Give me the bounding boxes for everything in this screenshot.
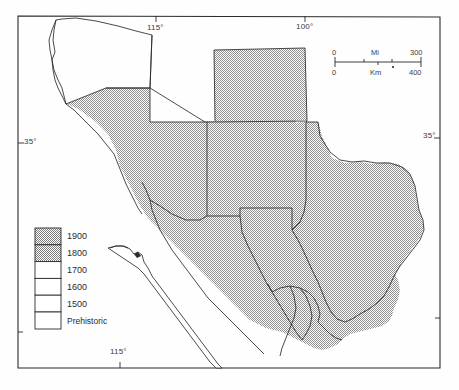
map-figure: 115° 100° 115° 35° 35° 0 Mi 300 0 Km 400… (0, 0, 459, 390)
map-canvas (0, 0, 459, 390)
legend-swatch-1500 (35, 295, 61, 312)
scale-km-max: 400 (409, 68, 422, 77)
longitude-label-100-top: 100° (296, 22, 313, 31)
legend-label-1800: 1800 (67, 248, 87, 258)
legend-swatch-1900 (35, 228, 61, 245)
scale-miles-zero: 0 (332, 48, 336, 57)
shaded-distribution-area (66, 48, 424, 350)
latitude-label-35-right: 35° (423, 131, 436, 140)
legend-box (35, 228, 61, 329)
legend-swatch-prehistoric (35, 312, 61, 329)
legend-label-prehistoric: Prehistoric (67, 316, 107, 326)
scale-km-unit: Km (370, 68, 381, 77)
legend-swatch-1700 (35, 262, 61, 279)
legend-label-1900: 1900 (67, 231, 87, 241)
legend-label-1700: 1700 (67, 265, 87, 275)
legend-label-1600: 1600 (67, 282, 87, 292)
latitude-label-35-left: 35° (24, 137, 37, 146)
longitude-label-115-bottom: 115° (110, 347, 127, 356)
legend-swatch-1800 (35, 245, 61, 262)
legend-label-1500: 1500 (67, 299, 87, 309)
legend-swatch-1600 (35, 278, 61, 295)
scale-km-zero: 0 (332, 68, 336, 77)
scale-miles-max: 300 (410, 48, 423, 57)
scale-bar-graphic (335, 57, 421, 68)
scale-miles-unit: Mi (371, 48, 379, 57)
longitude-label-115-top: 115° (147, 23, 164, 32)
